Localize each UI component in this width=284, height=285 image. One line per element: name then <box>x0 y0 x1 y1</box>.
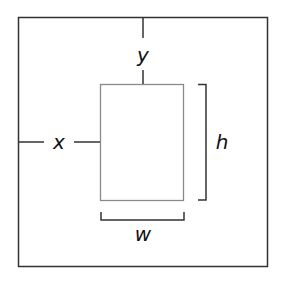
w-label: w <box>135 222 152 246</box>
x-label: x <box>52 130 65 154</box>
width-bracket: w <box>101 212 184 246</box>
position-dimension-diagram: y x h w <box>0 0 284 285</box>
y-label: y <box>136 43 150 67</box>
x-offset-indicator: x <box>18 130 100 154</box>
h-label: h <box>216 130 229 154</box>
inner-rectangle <box>101 85 184 201</box>
height-bracket: h <box>198 85 228 201</box>
y-offset-indicator: y <box>136 17 150 84</box>
